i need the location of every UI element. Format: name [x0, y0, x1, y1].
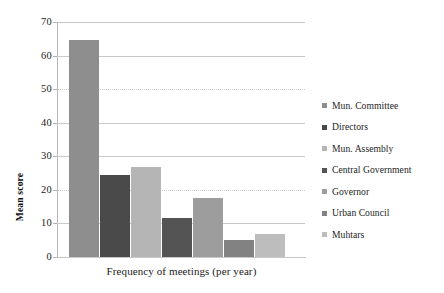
legend-swatch-icon: [322, 211, 327, 216]
y-axis-title: Mean score: [15, 137, 25, 257]
legend-item-label: Mun. Committee: [332, 101, 398, 111]
gridline: [57, 257, 305, 258]
legend-item-label: Central Government: [332, 165, 412, 175]
legend-swatch-icon: [322, 146, 327, 151]
y-axis-tick-label: 70: [22, 17, 52, 27]
legend: Mun. CommitteeDirectorsMun. AssemblyCent…: [322, 95, 440, 246]
legend-item[interactable]: Governor: [322, 181, 440, 203]
legend-item-label: Directors: [332, 122, 368, 132]
legend-item[interactable]: Urban Council: [322, 203, 440, 225]
y-axis-tick: [53, 257, 57, 258]
bar: [162, 218, 192, 257]
bar: [69, 40, 99, 257]
legend-swatch-icon: [322, 125, 327, 130]
y-axis-title-host: Mean score: [8, 100, 28, 190]
plot-area: [57, 22, 305, 257]
legend-swatch-icon: [322, 189, 327, 194]
y-axis-tick-label: 50: [22, 84, 52, 94]
y-axis-tick-label: 10: [22, 218, 52, 228]
y-axis-tick-label: 0: [22, 252, 52, 262]
bar-series: [57, 22, 305, 257]
legend-item-label: Muhtars: [332, 230, 364, 240]
legend-item[interactable]: Directors: [322, 117, 440, 139]
bar: [255, 234, 285, 257]
bar: [193, 198, 223, 257]
y-axis-tick-label: 60: [22, 51, 52, 61]
legend-item[interactable]: Mun. Committee: [322, 95, 440, 117]
bar: [100, 175, 130, 257]
legend-item[interactable]: Muhtars: [322, 224, 440, 246]
legend-item[interactable]: Mun. Assembly: [322, 138, 440, 160]
legend-item-label: Urban Council: [332, 208, 389, 218]
x-axis-title: Frequency of meetings (per year): [57, 265, 306, 277]
legend-swatch-icon: [322, 232, 327, 237]
legend-swatch-icon: [322, 168, 327, 173]
legend-item[interactable]: Central Government: [322, 160, 440, 182]
legend-swatch-icon: [322, 103, 327, 108]
bar: [131, 167, 161, 257]
legend-item-label: Mun. Assembly: [332, 144, 393, 154]
bar-chart: 010203040506070 Mean score Frequency of …: [0, 0, 444, 293]
bar: [224, 240, 254, 257]
legend-item-label: Governor: [332, 187, 369, 197]
